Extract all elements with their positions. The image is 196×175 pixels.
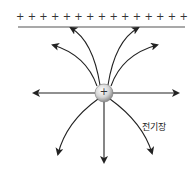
- field-lines-diagram: [0, 0, 196, 175]
- field-line-upper-right: [108, 28, 138, 85]
- point-charge-sign: +: [99, 86, 109, 98]
- field-line-lower-left: [58, 99, 98, 154]
- electric-field-label: 전기장: [142, 120, 166, 133]
